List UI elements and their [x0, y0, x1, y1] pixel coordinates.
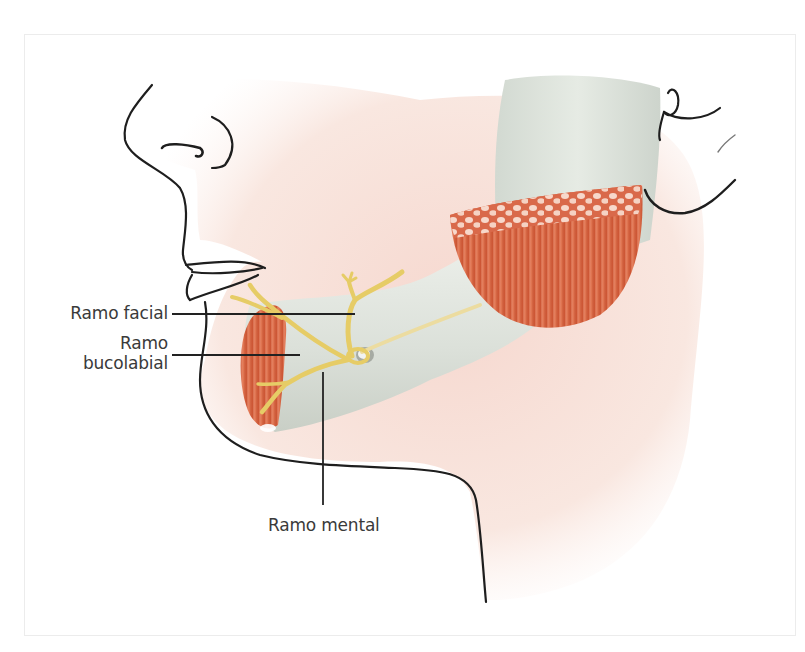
- anatomy-illustration: [0, 0, 805, 652]
- label-ramo-bucolabial: Ramo bucolabial: [40, 333, 168, 373]
- label-ramo-mental: Ramo mental: [268, 515, 380, 535]
- label-ramo-facial: Ramo facial: [40, 303, 168, 323]
- label-ramo-bucolabial-line2: bucolabial: [40, 353, 168, 373]
- label-ramo-bucolabial-line1: Ramo: [40, 333, 168, 353]
